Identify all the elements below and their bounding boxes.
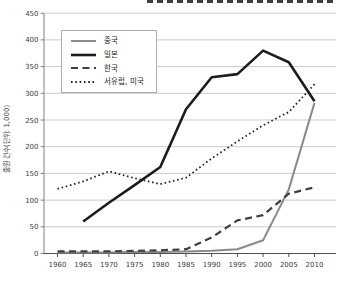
x-tick-label: 2005 [280,261,298,269]
y-tick-label: 250 [25,117,38,125]
x-tick-label: 1965 [74,261,92,269]
line-chart: 출원 건수(단위: 1,000) 05010015020025030035040… [0,0,340,284]
legend-label: 일본 [104,51,118,59]
x-tick-label: 1980 [151,261,169,269]
y-tick-label: 100 [25,197,38,205]
y-tick-label: 400 [25,36,38,44]
y-tick-label: 300 [25,90,38,98]
legend-line-sample-western-europe-usa [70,79,97,85]
x-tick-label: 1975 [126,261,144,269]
x-tick-label: 1990 [203,261,221,269]
x-tick-label: 2000 [254,261,272,269]
y-tick-label: 0 [34,250,38,258]
x-tick-label: 1960 [49,261,67,269]
x-tick-label: 1995 [228,261,246,269]
legend-item-korea: 한국 [70,62,154,74]
legend-line-sample-china [70,38,97,44]
legend-line-sample-japan [70,52,97,58]
series-line-korea [58,187,315,251]
legend-item-japan: 일본 [70,49,154,61]
legend: 중국일본한국서유럽, 미국 [61,30,157,93]
y-tick-label: 350 [25,63,38,71]
y-tick-label: 50 [30,223,39,231]
chart-figure: 출원 건수(단위: 1,000) 05010015020025030035040… [0,0,340,284]
x-tick-label: 1970 [100,261,118,269]
y-axis-title: 출원 건수(단위: 1,000) [2,105,11,174]
legend-label: 서유럽, 미국 [104,78,144,86]
legend-label: 한국 [104,65,118,73]
legend-item-china: 중국 [70,35,154,47]
legend-item-western-europe-usa: 서유럽, 미국 [70,76,154,88]
y-tick-label: 200 [25,143,38,151]
y-tick-label: 450 [25,10,38,18]
y-tick-label: 150 [25,170,38,178]
legend-label: 중국 [104,37,118,45]
legend-line-sample-korea [70,65,97,71]
x-tick-label: 2010 [306,261,324,269]
x-tick-label: 1985 [177,261,195,269]
